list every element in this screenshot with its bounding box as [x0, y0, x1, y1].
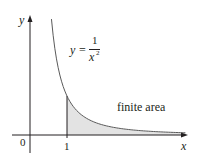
region-label: finite area	[117, 101, 165, 113]
tick-label-one: 1	[64, 141, 70, 152]
y-axis-arrow-icon	[28, 15, 33, 22]
y-axis-label: y	[19, 14, 24, 26]
function-denominator: x	[89, 51, 94, 63]
x-axis-label: x	[181, 140, 186, 152]
graph-canvas	[0, 0, 205, 165]
function-numerator: 1	[92, 35, 98, 46]
function-lhs: y	[70, 44, 75, 56]
origin-label: 0	[20, 137, 26, 148]
function-equals: =	[79, 44, 86, 56]
function-exponent: 2	[96, 50, 100, 57]
